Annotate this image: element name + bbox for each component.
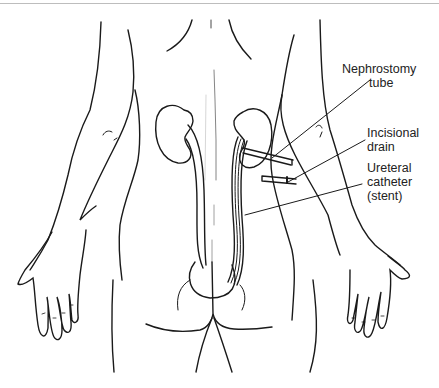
label-ureteral-line-1: Ureteral xyxy=(367,161,412,175)
label-incisional-line-2: drain xyxy=(367,140,419,154)
thigh-inner-lines xyxy=(196,318,232,372)
right-arm-inner xyxy=(281,35,340,255)
right-elbow-mark xyxy=(316,125,322,137)
left-hand xyxy=(18,230,86,340)
label-ureteral-line-2: catheter xyxy=(367,175,412,189)
left-hand-nails xyxy=(42,305,73,318)
right-hand xyxy=(348,256,410,337)
label-ureteral-line-3: (stent) xyxy=(367,189,412,203)
label-nephrostomy: Nephrostomy tube xyxy=(342,62,416,90)
label-incisional-line-1: Incisional xyxy=(367,126,419,140)
left-arm-inner xyxy=(80,30,134,220)
right-hand-nails xyxy=(352,316,384,322)
ureteral-leader xyxy=(245,184,362,215)
label-ureteral: Ureteral catheter (stent) xyxy=(367,161,412,203)
gluteal-cleft xyxy=(212,262,213,314)
left-torso-side xyxy=(119,90,140,280)
label-incisional: Incisional drain xyxy=(367,126,419,154)
neck-right-outline xyxy=(229,20,251,59)
left-arm-outer xyxy=(30,22,101,270)
label-nephrostomy-line-2: tube xyxy=(342,76,416,90)
left-ureter-inner xyxy=(186,139,203,268)
outer-hip-lines xyxy=(112,280,317,372)
left-elbow-mark xyxy=(103,131,112,135)
nephrostomy-leader xyxy=(272,80,370,158)
spine-line-faint xyxy=(205,95,206,180)
nephrostomy-tube xyxy=(243,148,293,165)
spine-line-lower xyxy=(212,205,214,262)
label-nephrostomy-line-1: Nephrostomy xyxy=(342,62,416,76)
incisional-leader xyxy=(288,140,365,182)
neck-left-outline xyxy=(167,20,192,51)
gluteal-fold xyxy=(146,314,272,331)
left-elbow-mark-2 xyxy=(114,138,117,140)
spine-line xyxy=(214,70,216,180)
left-kidney xyxy=(156,106,193,164)
